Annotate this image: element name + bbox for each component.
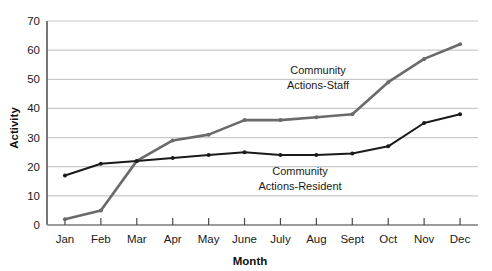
data-point — [99, 162, 103, 166]
x-tick-label: Feb — [91, 233, 111, 245]
data-point — [243, 150, 247, 154]
x-tick-label: Mar — [127, 233, 147, 245]
staff-annotation-line2: Actions-Staff — [287, 79, 350, 91]
data-point — [386, 80, 390, 84]
y-tick-label: 10 — [27, 190, 40, 202]
data-point — [422, 57, 426, 61]
x-tick-label: Nov — [414, 233, 435, 245]
y-tick-label: 50 — [27, 73, 40, 85]
data-point — [314, 115, 318, 119]
x-tick-label: Jan — [56, 233, 75, 245]
x-tick-label: May — [198, 233, 220, 245]
data-point — [422, 121, 426, 125]
data-point — [99, 208, 103, 212]
y-tick-label: 40 — [27, 102, 40, 114]
x-tick-label: Aug — [306, 233, 326, 245]
resident-annotation-line1: Community — [272, 165, 328, 177]
chart-canvas: 010203040506070 JanFebMarAprMayJuneJulyA… — [0, 0, 492, 271]
line-chart: 010203040506070 JanFebMarAprMayJuneJulyA… — [0, 0, 492, 271]
data-point — [350, 152, 354, 156]
data-point — [278, 118, 282, 122]
data-point — [63, 217, 67, 221]
data-point — [350, 112, 354, 116]
x-tick-label: June — [232, 233, 257, 245]
x-tick-label: July — [270, 233, 291, 245]
x-axis-title: Month — [233, 255, 267, 267]
data-point — [135, 159, 139, 163]
x-tick-label: Sept — [340, 233, 364, 245]
x-tick-label: Dec — [450, 233, 471, 245]
y-tick-label: 0 — [34, 219, 40, 231]
data-point — [243, 118, 247, 122]
data-point — [314, 153, 318, 157]
data-point — [207, 133, 211, 137]
resident-annotation-line2: Actions-Resident — [258, 180, 341, 192]
data-point — [386, 144, 390, 148]
y-tick-label: 30 — [27, 132, 40, 144]
x-tick-label: Apr — [164, 233, 182, 245]
data-point — [278, 153, 282, 157]
data-point — [63, 173, 67, 177]
x-tick-label: Oct — [379, 233, 398, 245]
y-tick-label: 20 — [27, 161, 40, 173]
data-point — [171, 138, 175, 142]
data-point — [207, 153, 211, 157]
chart-background — [0, 0, 492, 271]
data-point — [458, 42, 462, 46]
y-tick-label: 60 — [27, 44, 40, 56]
y-axis-title: Activity — [8, 107, 20, 149]
data-point — [171, 156, 175, 160]
data-point — [458, 112, 462, 116]
staff-annotation-line1: Community — [290, 64, 346, 76]
y-tick-label: 70 — [27, 15, 40, 27]
